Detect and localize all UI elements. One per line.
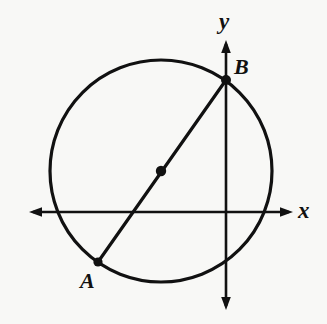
point-b-label: B: [234, 56, 249, 78]
geometry-figure: y x A B: [0, 0, 327, 324]
point-a-label: A: [80, 270, 95, 292]
y-axis-top-arrowhead: [221, 40, 231, 53]
x-axis-label: x: [298, 199, 310, 222]
x-axis: [29, 207, 293, 217]
y-axis-label: y: [219, 10, 229, 33]
geometry-canvas: [0, 0, 327, 324]
x-axis-left-arrowhead: [29, 207, 42, 217]
point-b-dot: [221, 75, 231, 85]
y-axis-bottom-arrowhead: [221, 297, 231, 310]
point-a-dot: [93, 257, 102, 266]
x-axis-right-arrowhead: [280, 207, 293, 217]
circle-center-dot: [156, 166, 166, 176]
